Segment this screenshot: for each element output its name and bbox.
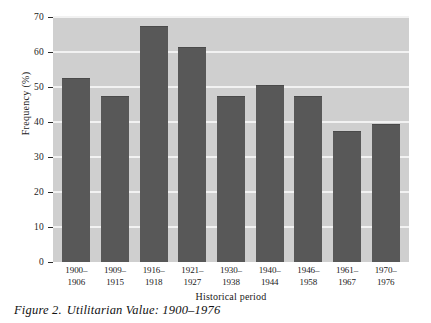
- y-axis-tick-label: 10: [34, 222, 44, 232]
- y-axis-title: Frequency (%): [20, 29, 31, 179]
- x-axis-tick-label-line: 1921–: [173, 265, 212, 277]
- y-axis-tick-label: 0: [39, 257, 44, 267]
- bar-slot: [57, 17, 96, 262]
- bar: [333, 131, 361, 262]
- x-axis-tick-label-line: 1915: [96, 277, 135, 289]
- x-axis-tick-label-line: 1900–: [57, 265, 96, 277]
- y-axis-tick: [48, 17, 53, 18]
- figure-container: 010203040506070 Frequency (%) 1900–19061…: [0, 0, 431, 323]
- y-axis-tick: [48, 87, 53, 88]
- y-axis-tick-label: 30: [34, 152, 44, 162]
- figure-caption: Figure 2.Utilitarian Value: 1900–1976: [14, 303, 220, 318]
- x-axis-tick-label-line: 1944: [250, 277, 289, 289]
- bar-slot: [96, 17, 135, 262]
- x-axis-tick-label-line: 1961–: [328, 265, 367, 277]
- x-axis-tick-label-line: 1906: [57, 277, 96, 289]
- bar: [256, 85, 284, 262]
- y-axis-tick: [48, 122, 53, 123]
- x-axis-tick-label-line: 1958: [289, 277, 328, 289]
- x-axis-tick-label-line: 1940–: [250, 265, 289, 277]
- bar-slot: [212, 17, 251, 262]
- x-axis-tick-label-line: 1967: [328, 277, 367, 289]
- y-axis-tick: [48, 52, 53, 53]
- y-axis-tick-label: 20: [34, 187, 44, 197]
- y-axis-tick: [48, 157, 53, 158]
- y-axis-tick-label: 50: [34, 82, 44, 92]
- x-axis-tick-label-line: 1938: [212, 277, 251, 289]
- y-axis-tick: [48, 227, 53, 228]
- x-axis-tick-label-line: 1916–: [134, 265, 173, 277]
- y-axis-tick-label: 60: [34, 47, 44, 57]
- x-axis-tick-label-line: 1927: [173, 277, 212, 289]
- bar: [217, 96, 245, 262]
- bar-slot: [173, 17, 212, 262]
- y-axis-tick: [48, 262, 53, 263]
- bar: [140, 26, 168, 262]
- x-axis-tick-label-line: 1918: [134, 277, 173, 289]
- bar: [372, 124, 400, 262]
- bar-slot: [250, 17, 289, 262]
- x-axis-title: Historical period: [53, 291, 409, 302]
- bar: [178, 47, 206, 262]
- y-axis-tick-label: 40: [34, 117, 44, 127]
- bar-slot: [328, 17, 367, 262]
- x-axis-tick-label-line: 1970–: [366, 265, 405, 277]
- y-axis-tick: [48, 192, 53, 193]
- x-axis-tick-label-line: 1946–: [289, 265, 328, 277]
- bar-slot: [134, 17, 173, 262]
- x-axis-tick-label-line: 1976: [366, 277, 405, 289]
- y-axis: 010203040506070: [48, 17, 53, 262]
- figure-caption-text: Utilitarian Value: 1900–1976: [67, 303, 221, 317]
- chart-plot-area: [53, 17, 409, 262]
- bar: [294, 96, 322, 262]
- figure-number: Figure 2.: [14, 303, 62, 317]
- bar: [62, 78, 90, 262]
- bar-slot: [289, 17, 328, 262]
- x-axis-tick-label-line: 1909–: [96, 265, 135, 277]
- bar-series: [53, 17, 409, 262]
- bar-slot: [366, 17, 405, 262]
- y-axis-tick-label: 70: [34, 12, 44, 22]
- x-axis-tick-label-line: 1930–: [212, 265, 251, 277]
- bar: [101, 96, 129, 262]
